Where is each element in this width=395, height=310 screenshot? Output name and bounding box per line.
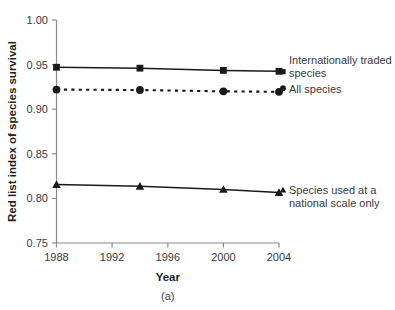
y-tick-label-0.85: 0.85 xyxy=(27,148,48,160)
data-point-internationally-traded-species-1994 xyxy=(137,65,144,72)
y-axis-title: Red list index of species survival xyxy=(6,41,18,222)
legend-label-national-scale-line1: Species used at a xyxy=(289,184,377,196)
data-point-all-species-2000 xyxy=(219,87,227,95)
panel-caption: (a) xyxy=(161,290,174,302)
legend-label-internationally-traded-species-line1: Internationally traded xyxy=(289,54,392,66)
y-tick-label-0.95: 0.95 xyxy=(27,59,48,71)
y-tick-label-0.80: 0.80 xyxy=(27,192,48,204)
red-list-index-line-chart: 1.00 0.95 0.90 0.85 0.80 0.75 1988 1992 … xyxy=(0,0,395,310)
y-tick-label-0.75: 0.75 xyxy=(27,237,48,249)
y-tick-label-0.90: 0.90 xyxy=(27,103,48,115)
figure-container: 1.00 0.95 0.90 0.85 0.80 0.75 1988 1992 … xyxy=(0,0,395,310)
legend-label-internationally-traded-species-line2: species xyxy=(289,67,327,79)
legend-marker-circle-icon xyxy=(280,85,286,91)
data-point-internationally-traded-species-2000 xyxy=(220,67,227,74)
legend-item-all-species: All species xyxy=(289,83,342,95)
x-axis-title: Year xyxy=(156,271,181,283)
legend-label-all-species: All species xyxy=(289,83,342,95)
legend-item-species-used-at-a-national-scale-only: Species used at a national scale only xyxy=(289,184,380,209)
data-point-all-species-1988 xyxy=(53,86,61,94)
x-tick-label-2004: 2004 xyxy=(267,251,291,263)
legend-label-national-scale-line2: national scale only xyxy=(289,197,380,209)
data-point-all-species-1994 xyxy=(136,86,144,94)
x-tick-label-1988: 1988 xyxy=(44,251,68,263)
x-tick-label-1992: 1992 xyxy=(100,251,124,263)
y-tick-label-1.00: 1.00 xyxy=(27,14,48,26)
x-tick-label-1996: 1996 xyxy=(156,251,180,263)
legend-marker-square-icon xyxy=(280,69,285,74)
chart-background xyxy=(0,0,395,310)
x-tick-label-2000: 2000 xyxy=(211,251,235,263)
data-point-internationally-traded-species-1988 xyxy=(53,64,60,71)
